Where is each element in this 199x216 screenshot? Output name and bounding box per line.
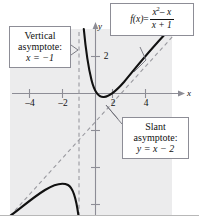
- formula-equals: =: [143, 14, 148, 24]
- slant-callout-line1: Slant: [124, 121, 187, 132]
- slant-callout-line3: y = x − 2: [124, 143, 187, 154]
- vertical-callout-line3: x = −1: [11, 52, 69, 63]
- x-tick-label-pos2: 2: [108, 98, 118, 108]
- vertical-callout-line1: Vertical: [11, 30, 69, 41]
- slant-callout-line2: asymptote:: [124, 132, 187, 143]
- y-tick-label-pos2: 2: [101, 51, 111, 61]
- x-tick-label-pos4: 4: [141, 98, 151, 108]
- x-axis-arrow: [178, 91, 185, 97]
- rational-function-figure: f(x)=x2– xx + 1 Vertical asymptote: x = …: [0, 0, 199, 216]
- function-formula-callout: f(x)=x2– xx + 1: [110, 3, 194, 36]
- formula-fx-label: f(x): [130, 14, 143, 24]
- x-axis-label: x: [187, 88, 191, 98]
- vertical-callout-line2: asymptote:: [11, 41, 69, 52]
- slant-asymptote-callout: Slant asymptote: y = x − 2: [122, 117, 189, 159]
- formula-numerator: x2– x: [150, 7, 174, 20]
- y-axis-label: y: [98, 21, 102, 31]
- x-tick-label-neg2: –2: [56, 98, 70, 108]
- vertical-asymptote-callout: Vertical asymptote: x = −1: [9, 26, 71, 68]
- formula-fraction: x2– xx + 1: [150, 7, 174, 32]
- numerator-rest: – x: [160, 7, 171, 17]
- formula-denominator: x + 1: [150, 20, 174, 32]
- x-tick-label-neg4: –4: [23, 98, 37, 108]
